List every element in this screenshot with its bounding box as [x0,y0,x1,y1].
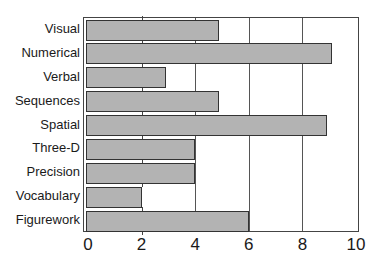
bar-spatial [86,115,327,136]
x-tick-label: 10 [347,235,366,255]
x-tick-label: 0 [83,235,92,255]
category-label: Precision [27,164,80,180]
plot-area [83,17,359,232]
x-tick-label: 6 [244,235,253,255]
category-label: Visual [45,21,80,37]
category-label: Verbal [43,69,80,85]
horizontal-bar-chart: VisualNumericalVerbalSequencesSpatialThr… [0,0,391,267]
x-tick-label: 2 [137,235,146,255]
category-label: Spatial [40,117,80,133]
bar-numerical [86,43,332,64]
x-tick-label: 8 [298,235,307,255]
bar-precision [86,163,195,184]
bar-verbal [86,67,166,88]
x-tick-label: 4 [190,235,199,255]
bar-visual [86,20,219,41]
category-label: Three-D [32,140,80,156]
bar-sequences [86,91,219,112]
bar-vocabulary [86,187,142,208]
category-label: Figurework [16,212,80,228]
category-label: Vocabulary [16,188,80,204]
category-label: Numerical [21,45,80,61]
bar-figurework [86,211,249,232]
bar-three-d [86,139,195,160]
category-label: Sequences [15,93,80,109]
